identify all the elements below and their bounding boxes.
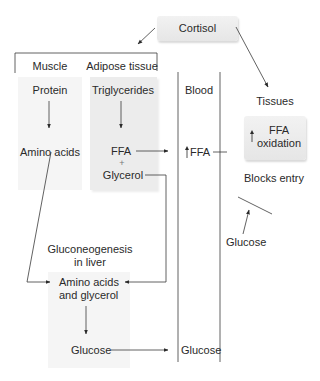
gluconeogenesis-header-line-1: Gluconeogenesis <box>40 243 140 256</box>
muscle-header: Muscle <box>18 60 82 73</box>
ffa-oxidation-line-2: oxidation <box>254 137 304 150</box>
ffa-oxidation-line-1: FFA <box>254 124 304 137</box>
cortisol-label: Cortisol <box>157 22 238 35</box>
adipose-header: Adipose tissue <box>84 60 160 73</box>
amino-acids-glycerol-line-1: Amino acids <box>59 276 119 289</box>
blood-ffa-label: FFA <box>190 146 210 159</box>
glycerol-label: Glycerol <box>100 169 146 182</box>
protein-label: Protein <box>18 84 82 97</box>
liver-glucose-label: Glucose <box>71 344 111 357</box>
triglycerides-label: Triglycerides <box>86 84 160 97</box>
blood-header: Blood <box>178 84 220 97</box>
amino-acids-glycerol-line-2: and glycerol <box>59 289 118 302</box>
gluconeogenesis-header-line-2: in liver <box>40 256 140 269</box>
blocks-entry-label: Blocks entry <box>244 172 304 185</box>
cortisol-metabolism-diagram: Cortisol Muscle Protein Amino acids Adip… <box>0 0 320 381</box>
amino-acids-label: Amino acids <box>14 146 86 159</box>
tissues-glucose-label: Glucose <box>226 236 266 249</box>
blood-glucose-label: Glucose <box>181 344 221 357</box>
tissues-header: Tissues <box>244 95 306 108</box>
